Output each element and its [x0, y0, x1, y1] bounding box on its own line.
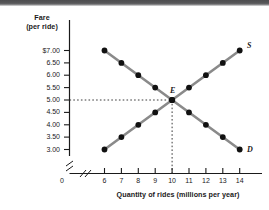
- equilibrium-point-marker: [169, 97, 175, 103]
- supply-curve-label: S: [247, 41, 251, 50]
- data-point: [135, 122, 141, 128]
- data-point: [237, 147, 243, 153]
- data-point: [119, 60, 125, 66]
- x-axis-title: Quantity of rides (millions per year): [88, 190, 268, 199]
- x-tick-label: 7: [114, 177, 128, 184]
- y-tick-label: 4.50: [22, 108, 60, 115]
- y-tick-label: $7.00: [22, 47, 60, 54]
- data-point: [186, 85, 192, 91]
- y-axis-ticks: [64, 51, 70, 150]
- data-point: [220, 60, 226, 66]
- y-tick-label: 6.00: [22, 71, 60, 78]
- x-tick-label: 13: [216, 177, 230, 184]
- y-axis-title-line2: (per ride): [14, 22, 70, 31]
- x-tick-label: 10: [165, 177, 179, 184]
- data-point: [152, 85, 158, 91]
- origin-label: 0: [60, 177, 64, 184]
- y-tick-label: 3.00: [22, 146, 60, 153]
- y-tick-label: 5.00: [22, 96, 60, 103]
- y-tick-label: 6.50: [22, 59, 60, 66]
- y-tick-label: 3.50: [22, 133, 60, 140]
- data-point: [135, 72, 141, 78]
- x-tick-label: 9: [148, 177, 162, 184]
- x-tick-label: 11: [182, 177, 196, 184]
- data-point: [186, 110, 192, 116]
- y-axis-title-line1: Fare: [14, 13, 70, 22]
- data-point: [237, 48, 243, 54]
- y-tick-label: 4.00: [22, 121, 60, 128]
- y-axis-break-icon: [66, 161, 73, 171]
- y-axis-title: Fare (per ride): [14, 13, 70, 31]
- data-point: [220, 134, 226, 140]
- x-tick-label: 14: [233, 177, 247, 184]
- x-tick-label: 12: [199, 177, 213, 184]
- data-point: [203, 72, 209, 78]
- demand-curve-label: D: [247, 145, 253, 154]
- supply-demand-figure: Fare (per ride) $7.00 6.50 6.00 5.50 5.0…: [0, 0, 269, 210]
- data-point: [102, 147, 108, 153]
- y-tick-label: 5.50: [22, 84, 60, 91]
- data-point: [152, 110, 158, 116]
- data-point: [203, 122, 209, 128]
- equilibrium-label: E: [170, 86, 175, 95]
- data-point: [102, 48, 108, 54]
- x-tick-label: 6: [98, 177, 112, 184]
- x-tick-label: 8: [131, 177, 145, 184]
- data-point: [119, 134, 125, 140]
